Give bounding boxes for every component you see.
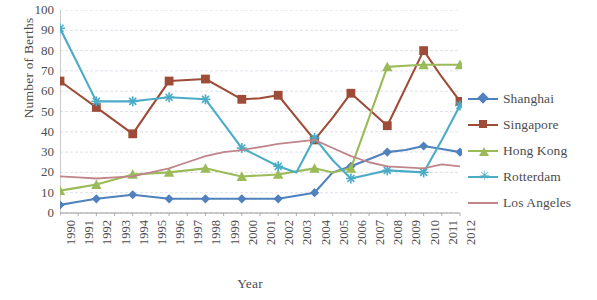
data-point-marker <box>164 92 174 102</box>
legend-marker-icon <box>468 92 498 106</box>
x-tick-label: 2007 <box>374 220 387 266</box>
line-chart: Number of Berths 1009080706050403020100 … <box>0 0 597 300</box>
y-tick-label: 70 <box>18 64 54 77</box>
data-point-marker <box>237 95 246 104</box>
data-point-marker <box>274 194 283 203</box>
y-tick-label: 10 <box>18 186 54 199</box>
legend-item-hong-kong[interactable]: Hong Kong <box>468 138 596 164</box>
y-tick-label: 50 <box>18 105 54 118</box>
x-tick-label: 1993 <box>120 220 133 266</box>
x-tick-label: 2003 <box>301 220 314 266</box>
data-point-marker <box>273 161 283 171</box>
x-tick-label: 1995 <box>156 220 169 266</box>
data-point-marker <box>201 194 210 203</box>
legend-label: Hong Kong <box>503 143 567 159</box>
data-point-marker <box>237 194 246 203</box>
data-point-marker <box>201 75 210 84</box>
data-point-marker <box>346 173 356 183</box>
data-point-marker <box>60 200 65 209</box>
chart-legend: ShanghaiSingaporeHong Kong✳RotterdamLos … <box>468 86 596 216</box>
x-tick-label: 1996 <box>174 220 187 266</box>
y-tick-label: 0 <box>18 206 54 219</box>
x-tick-label: 1994 <box>138 220 151 266</box>
x-tick-label: 1992 <box>101 220 114 266</box>
legend-item-singapore[interactable]: Singapore <box>468 112 596 138</box>
x-tick-label: 2010 <box>429 220 442 266</box>
data-point-marker <box>60 77 64 86</box>
legend-item-los-angeles[interactable]: Los Angeles <box>468 190 596 216</box>
legend-marker-icon <box>468 118 498 132</box>
y-tick-label: 40 <box>18 125 54 138</box>
legend-marker-icon <box>468 196 498 210</box>
series-hong-kong <box>60 60 462 195</box>
x-tick-label: 2006 <box>356 220 369 266</box>
data-point-marker <box>60 23 65 33</box>
data-point-marker <box>92 194 101 203</box>
y-tick-label: 100 <box>18 3 54 16</box>
x-tick-label: 2000 <box>247 220 260 266</box>
x-tick-label: 1998 <box>210 220 223 266</box>
x-tick-label: 2012 <box>465 220 478 266</box>
x-tick-label: 1990 <box>65 220 78 266</box>
legend-label: Shanghai <box>503 91 554 107</box>
x-tick-label: 2008 <box>392 220 405 266</box>
legend-item-shanghai[interactable]: Shanghai <box>468 86 596 112</box>
data-point-marker <box>383 121 392 130</box>
data-point-marker <box>128 96 138 106</box>
legend-item-rotterdam[interactable]: ✳Rotterdam <box>468 164 596 190</box>
legend-label: Los Angeles <box>503 195 571 211</box>
data-point-marker <box>419 141 428 150</box>
x-tick-label: 2004 <box>320 220 333 266</box>
x-axis-ticks: 1990199119921993199419951996199719981999… <box>60 216 460 274</box>
x-tick-label: 2009 <box>410 220 423 266</box>
series-rotterdam <box>60 23 462 183</box>
y-tick-label: 20 <box>18 165 54 178</box>
legend-marker-icon <box>468 144 498 158</box>
x-tick-label: 1999 <box>229 220 242 266</box>
data-point-marker <box>274 91 283 100</box>
data-point-marker <box>383 148 392 157</box>
x-tick-label: 1991 <box>83 220 96 266</box>
x-tick-label: 2005 <box>338 220 351 266</box>
series-line <box>60 51 460 140</box>
data-point-marker <box>419 46 428 55</box>
data-point-marker <box>347 89 356 98</box>
legend-marker-icon: ✳ <box>468 170 498 184</box>
x-tick-label: 1997 <box>192 220 205 266</box>
data-point-marker <box>128 129 137 138</box>
y-tick-label: 80 <box>18 44 54 57</box>
y-tick-label: 90 <box>18 23 54 36</box>
y-tick-label: 60 <box>18 84 54 97</box>
data-point-marker <box>128 190 137 199</box>
data-point-marker <box>165 77 174 86</box>
x-tick-label: 2011 <box>447 220 460 266</box>
x-axis-title: Year <box>55 276 445 292</box>
legend-label: Rotterdam <box>503 169 561 185</box>
x-tick-label: 2001 <box>265 220 278 266</box>
data-point-marker <box>200 94 210 104</box>
x-tick-label: 2002 <box>283 220 296 266</box>
data-point-marker <box>455 148 462 157</box>
legend-label: Singapore <box>503 117 559 133</box>
y-axis-ticks: 1009080706050403020100 <box>18 0 54 300</box>
plot-area <box>60 10 460 213</box>
y-tick-label: 30 <box>18 145 54 158</box>
data-point-marker <box>237 143 247 153</box>
plot-svg <box>60 10 462 223</box>
data-point-marker <box>164 194 173 203</box>
series-singapore <box>60 46 462 144</box>
